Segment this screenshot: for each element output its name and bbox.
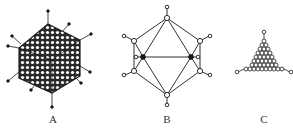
figure-c-triangle-face (235, 30, 293, 74)
figure-label-a: A (49, 113, 57, 125)
figure-a-capsid (7, 10, 93, 109)
figure-label-c: C (260, 113, 267, 125)
penton-fibers (122, 5, 212, 107)
capsomere-grid (244, 39, 284, 71)
virus-structure-diagram (0, 0, 293, 129)
figure-label-b: B (163, 113, 170, 125)
figure-b-icosahedron (122, 5, 212, 107)
capsid-hexagon (19, 24, 80, 93)
